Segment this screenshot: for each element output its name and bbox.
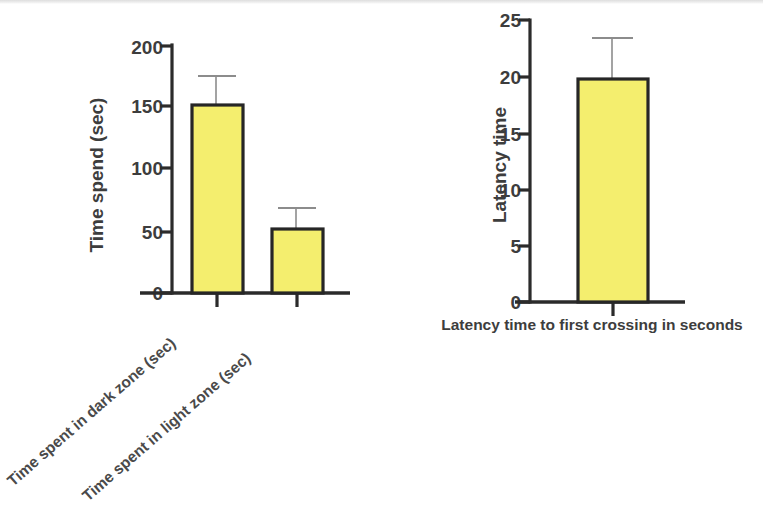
right-bar-latency[interactable]: [578, 79, 648, 302]
right-ytick-label-20: 20: [500, 67, 521, 88]
right-bar-chart: Latency time 25 20 15 10 5 0 Latency tim…: [420, 0, 763, 506]
left-y-axis-title: Time spend (sec): [86, 98, 107, 253]
left-ytick-label-200: 200: [131, 37, 163, 58]
left-bar-dark-zone[interactable]: [192, 105, 243, 293]
left-bar-light-zone[interactable]: [272, 229, 323, 293]
left-bar-chart: Time spend (sec) 200 150 100 50 0 Time s…: [0, 0, 420, 506]
figure-canvas: Time spend (sec) 200 150 100 50 0 Time s…: [0, 0, 763, 506]
right-ytick-label-10: 10: [500, 180, 521, 201]
right-ytick-label-15: 15: [500, 124, 522, 145]
right-x-axis-caption: Latency time to first crossing in second…: [441, 316, 742, 333]
left-ytick-label-50: 50: [142, 222, 163, 243]
right-ytick-label-25: 25: [500, 10, 522, 31]
left-ytick-label-150: 150: [131, 96, 163, 117]
left-ytick-label-100: 100: [131, 158, 163, 179]
left-category-label-dark: Time spent in dark zone (sec): [4, 334, 179, 489]
left-category-label-light: Time spent in light zone (sec): [79, 349, 254, 504]
